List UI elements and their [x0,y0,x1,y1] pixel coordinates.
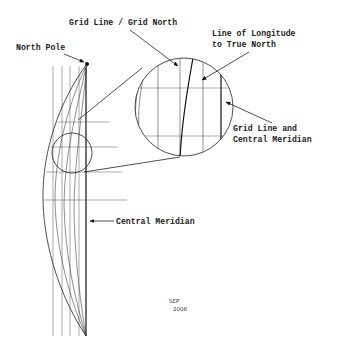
north-pole-dot [85,62,89,66]
signature-year: 2008 [173,306,187,312]
arrow-longitude [202,52,249,80]
label-north-pole: North Pole [16,43,65,52]
magnified-circle [135,58,233,156]
label-grid-central-1: Grid Line and [233,124,297,133]
zoom-connector-top [78,68,142,120]
arrow-grid-north [130,30,178,66]
diagram-canvas: North Pole Grid Line / Grid North Line o… [0,0,337,351]
label-grid-central-2: Central Meridian [233,135,312,144]
zoom-connector-bottom [84,157,180,172]
label-grid-north: Grid Line / Grid North [69,18,177,27]
arrow-north-pole [64,54,84,62]
label-longitude-2: to True North [212,40,276,49]
label-central-meridian: Central Meridian [116,217,195,226]
grid-lines-vertical [53,66,86,336]
label-longitude-1: Line of Longitude [212,29,296,38]
magnified-grid [130,55,240,160]
grid-convergence-diagram: North Pole Grid Line / Grid North Line o… [0,0,337,351]
signature-initials: SEP [169,298,180,304]
